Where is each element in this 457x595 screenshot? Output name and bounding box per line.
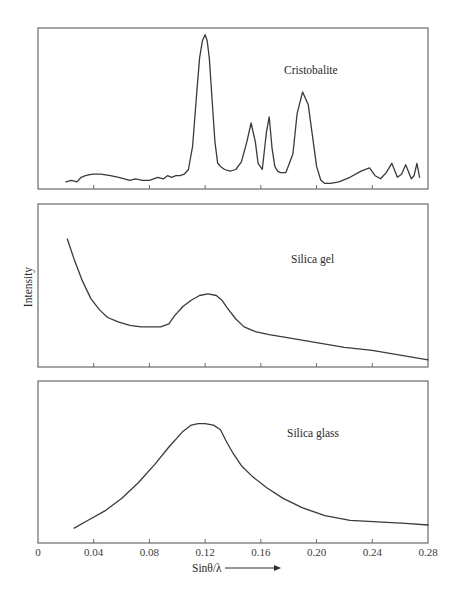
plot-frame	[38, 204, 428, 367]
x-tick-label: 0.04	[84, 546, 104, 558]
x-ticks	[94, 363, 373, 367]
right-arrow-icon	[225, 565, 281, 571]
x-tick-label: 0.20	[307, 546, 327, 558]
y-axis-label: Intensity	[22, 267, 35, 307]
x-ticks	[94, 185, 373, 189]
panel-silica-gel: Silica gel	[38, 204, 428, 367]
x-tick-labels: 00.040.080.120.160.200.240.28	[35, 546, 438, 558]
x-tick-label: 0.28	[418, 546, 438, 558]
silica-gel-curve	[67, 239, 428, 360]
x-axis-label: Sinθ/λ	[192, 562, 222, 574]
plot-frame	[38, 381, 428, 543]
xrd-figure: Cristobalite Silica gel Silica glass 00.…	[0, 0, 457, 595]
x-tick-label: 0.16	[251, 546, 271, 558]
plot-frame	[38, 28, 428, 189]
x-tick-label: 0.12	[196, 546, 215, 558]
x-tick-label: 0.08	[140, 546, 160, 558]
panel-cristobalite: Cristobalite	[38, 28, 428, 189]
cristobalite-curve	[66, 35, 420, 184]
panel-label-silica-gel: Silica gel	[291, 253, 334, 266]
silica-glass-curve	[74, 424, 428, 528]
x-tick-label: 0.24	[363, 546, 383, 558]
panel-label-silica-glass: Silica glass	[287, 427, 340, 440]
panel-silica-glass: Silica glass	[38, 381, 428, 543]
x-tick-label: 0	[35, 546, 41, 558]
panel-label-cristobalite: Cristobalite	[284, 64, 338, 76]
